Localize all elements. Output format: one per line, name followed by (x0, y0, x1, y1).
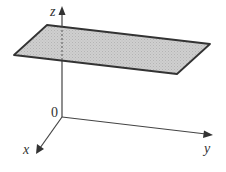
z-arrow-icon (59, 6, 66, 15)
x-arrow-icon (36, 144, 44, 154)
y-arrow-icon (203, 131, 213, 139)
x-axis-label: x (22, 142, 30, 157)
x-axis (40, 117, 62, 148)
origin-label: 0 (51, 105, 58, 120)
diagram-canvas: z y x 0 (0, 0, 226, 172)
y-axis (62, 117, 206, 134)
y-axis-label: y (202, 141, 211, 156)
axes-plane-diagram: z y x 0 (0, 0, 226, 172)
horizontal-plane (14, 25, 210, 74)
z-axis-label: z (49, 4, 56, 19)
